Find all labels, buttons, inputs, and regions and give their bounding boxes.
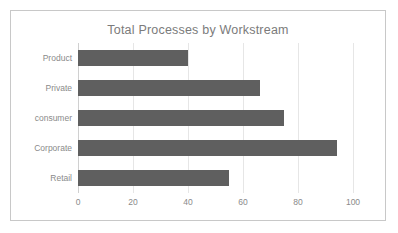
x-tick-label-20: 20 — [128, 197, 137, 207]
bar-row: Product — [78, 43, 353, 73]
bar-row: Retail — [78, 163, 353, 193]
chart-frame: Total Processes by Workstream ProductPri… — [10, 10, 386, 221]
x-tick-label-0: 0 — [76, 197, 81, 207]
chart-title: Total Processes by Workstream — [11, 23, 385, 37]
x-tick-label-60: 60 — [238, 197, 247, 207]
bar-row: Corporate — [78, 133, 353, 163]
bar — [78, 50, 188, 66]
category-label: Private — [46, 80, 72, 96]
bar — [78, 170, 229, 186]
bar-row: consumer — [78, 103, 353, 133]
x-tick-label-40: 40 — [183, 197, 192, 207]
bar — [78, 110, 284, 126]
gridline-100 — [353, 43, 354, 193]
plot-area: ProductPrivateconsumerCorporateRetail — [78, 43, 353, 193]
x-tick-label-80: 80 — [293, 197, 302, 207]
bar — [78, 80, 260, 96]
bar-series: ProductPrivateconsumerCorporateRetail — [78, 43, 353, 193]
bar — [78, 140, 337, 156]
x-axis-tick-labels: 020406080100 — [78, 197, 353, 211]
category-label: Retail — [50, 170, 72, 186]
category-label: Corporate — [34, 140, 72, 156]
x-tick-label-100: 100 — [346, 197, 360, 207]
category-label: Product — [43, 50, 72, 66]
category-label: consumer — [35, 110, 72, 126]
bar-row: Private — [78, 73, 353, 103]
